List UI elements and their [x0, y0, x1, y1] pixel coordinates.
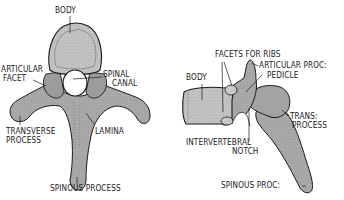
label-articular-proc: ARTICULAR PROC:	[259, 62, 327, 70]
label-spinous-process-superior: SPINOUS PROCESS	[50, 185, 121, 193]
label-body-superior: BODY	[55, 7, 76, 15]
label-intervertebral-notch-line2: NOTCH	[232, 148, 259, 156]
label-trans-process-line2: PROCESS	[292, 122, 327, 130]
label-articular-facet-line2: FACET	[3, 75, 26, 83]
vertebral-body	[49, 23, 102, 75]
spinal-canal-hole	[63, 70, 87, 96]
vertebra-illustration	[0, 0, 344, 200]
label-lamina: LAMINA	[95, 128, 124, 136]
vertebra-diagram: BODY ARTICULAR FACET SPINAL CANAL TRANSV…	[0, 0, 344, 200]
label-facets-for-ribs: FACETS FOR RIBS	[215, 51, 281, 59]
label-articular-facet-line1: ARTICULAR	[1, 66, 43, 74]
label-spinous-proc-lateral: SPINOUS PROC:	[221, 182, 280, 190]
label-pedicle: PEDICLE	[267, 72, 298, 80]
label-transverse-process-line1: TRANSVERSE	[6, 128, 56, 136]
label-intervertebral-notch-line1: INTERVERTEBRAL	[186, 139, 251, 147]
label-trans-process-line1: TRANS:	[290, 113, 318, 121]
label-body-lateral: BODY	[186, 74, 207, 82]
label-transverse-process-line2: PROCESS	[6, 137, 41, 145]
superior-view-vertebra	[10, 16, 150, 190]
rib-facet-lower	[221, 117, 233, 125]
rib-facet-upper	[225, 85, 237, 95]
label-spinal-canal-line1: SPINAL	[103, 71, 129, 79]
label-spinal-canal-line2: CANAL	[112, 80, 137, 88]
